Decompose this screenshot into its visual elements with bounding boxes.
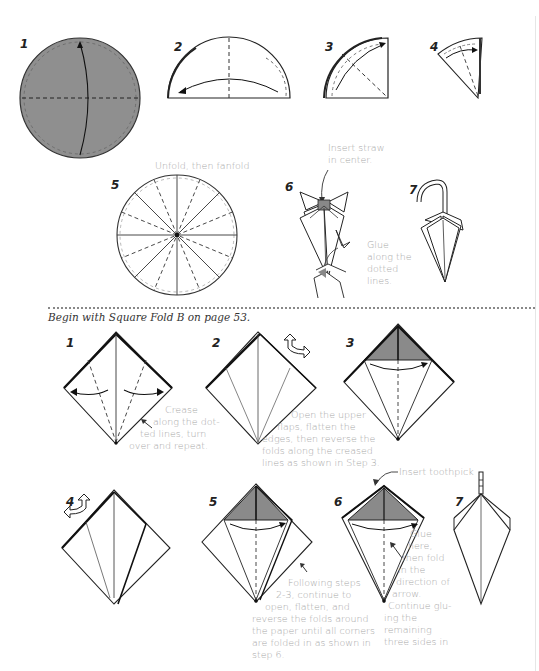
top-step-5-caption: Unfold, then fanfold [155, 160, 250, 172]
instruction-page: 1 2 3 4 Unfold, then fanfold 5 [0, 0, 539, 671]
top-step-6-caption-line-2: in center. [328, 154, 372, 166]
bottom-step-6-caption-line-5: direction of [396, 576, 450, 588]
top-step-7-umbrella-diagram [415, 178, 467, 284]
top-step-2-semicircle-diagram [166, 36, 292, 100]
section-divider [48, 307, 535, 309]
bottom-step-6-caption-line-10: three sides in [384, 636, 448, 648]
top-step-5-fanfold-diagram [115, 173, 239, 297]
top-step-3-quarter-diagram [322, 36, 392, 100]
top-step-6-side-caption-line-4: lines. [367, 275, 392, 287]
top-step-6-side-caption-line-2: along the [367, 251, 412, 263]
bottom-step-6-caption-line-4: in the [398, 564, 425, 576]
bottom-step-5-caption-line-7: step 6. [252, 649, 285, 661]
bottom-step-6-caption-line-1: Glue [410, 528, 432, 540]
bottom-step-6-caption-line-9: remaining [384, 624, 432, 636]
bottom-step-5-pointer-icon [299, 562, 309, 574]
bottom-step-5-caption-line-5: the paper until all corners [252, 625, 375, 637]
bottom-step-7-umbrella-diagram [452, 470, 512, 606]
bottom-step-5-caption-line-4: reverse the folds around [252, 613, 369, 625]
bottom-step-2-caption-line-4: folds along the creased [262, 445, 373, 457]
bottom-step-5-caption-line-6: are folded in as shown in [252, 637, 371, 649]
bottom-step-3-diamond-diagram [342, 322, 456, 442]
bottom-step-6-caption-line-2: here, [408, 540, 432, 552]
bottom-step-6-caption-line-8: ing the [384, 612, 417, 624]
top-step-1-circle-diagram [18, 33, 142, 163]
top-step-6-side-caption-line-3: dotted [367, 263, 398, 275]
top-step-4-wedge-diagram [436, 36, 486, 100]
page-edge [535, 16, 536, 671]
bottom-step-1-caption-line-4: over and repeat. [129, 440, 208, 452]
bottom-step-4-diamond-diagram [60, 488, 172, 608]
bottom-step-6-caption-line-7: Continue glu- [388, 600, 452, 612]
bottom-step-6-caption-line-3: then fold [402, 552, 444, 564]
top-step-6-number: 6 [285, 180, 293, 194]
bottom-step-1-caption-line-3: ted lines, turn [140, 428, 206, 440]
bottom-step-2-caption-line-5: lines as shown in Step 3. [262, 457, 380, 469]
top-step-6-side-caption-line-1: Glue [367, 239, 389, 251]
bottom-step-1-caption-line-1: Crease [165, 404, 198, 416]
bottom-section-intro: Begin with Square Fold B on page 53. [48, 311, 250, 323]
top-step-6-umbrella-diagram [298, 168, 370, 300]
bottom-step-6-caption-line-6: arrow. [392, 588, 421, 600]
top-step-6-caption-line-1: Insert straw [328, 142, 384, 154]
